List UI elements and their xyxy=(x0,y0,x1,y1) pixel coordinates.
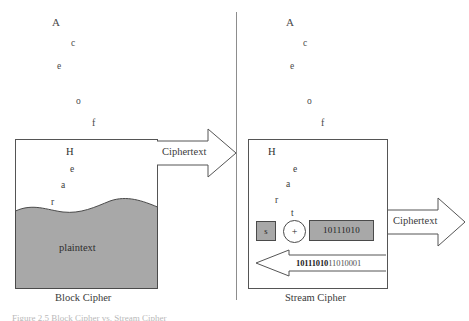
xor-operator-icon: + xyxy=(283,220,306,243)
floating-letter: A xyxy=(52,17,60,28)
figure-caption: Figure 2.5 Block Cipher vs. Stream Ciphe… xyxy=(12,314,452,321)
plaintext-letter: H xyxy=(268,147,276,158)
left-ciphertext-arrow-label: Ciphertext xyxy=(162,147,206,158)
plaintext-letter: H xyxy=(66,147,74,158)
stream-cipher-caption: Stream Cipher xyxy=(285,293,346,304)
plaintext-label: plaintext xyxy=(59,243,96,254)
plaintext-letter: e xyxy=(293,165,297,175)
floating-letter: f xyxy=(321,118,324,128)
floating-letter: c xyxy=(303,39,307,49)
block-cipher-caption: Block Cipher xyxy=(55,293,111,304)
plaintext-letter: t xyxy=(291,209,294,219)
plaintext-letter: r xyxy=(51,198,54,208)
keystream-chip: 10111010 xyxy=(309,220,374,241)
floating-letter: f xyxy=(92,118,95,128)
feedback-bitstring-rest: 11010001 xyxy=(328,258,361,268)
plaintext-letter: a xyxy=(61,181,65,191)
floating-letter: c xyxy=(71,39,75,49)
block-cipher-box xyxy=(15,139,158,289)
plaintext-letter: a xyxy=(286,180,290,190)
figure-block-vs-stream-cipher: A c e o f H e a r plaintext Ciphertext B… xyxy=(0,0,469,321)
floating-letter: e xyxy=(290,62,294,72)
feedback-bitstring-bold: 10111010 xyxy=(296,258,328,268)
floating-letter: A xyxy=(286,17,294,28)
panel-divider xyxy=(236,12,237,300)
floating-letter: o xyxy=(307,97,312,107)
plaintext-letter: e xyxy=(70,165,74,175)
floating-letter: e xyxy=(57,62,61,72)
feedback-bitstring: 1011101011010001 xyxy=(296,259,361,268)
plaintext-letter: r xyxy=(275,196,278,206)
floating-letter: o xyxy=(76,97,81,107)
right-ciphertext-arrow-label: Ciphertext xyxy=(393,216,437,227)
key-state-chip: s xyxy=(256,221,276,241)
